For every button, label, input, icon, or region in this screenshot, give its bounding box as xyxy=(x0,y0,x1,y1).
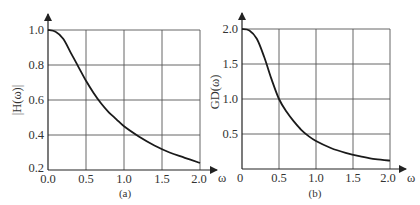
chart-a: 1.0 0.8 0.6 0.4 0.2 0.0 0.5 1.0 1.5 2.0 … xyxy=(10,14,226,200)
figure: 1.0 0.8 0.6 0.4 0.2 0.0 0.5 1.0 1.5 2.0 … xyxy=(0,0,420,205)
caption-b: (b) xyxy=(309,187,322,200)
x-label-b: ω xyxy=(407,171,415,185)
x-ticks-a: 0.0 0.5 1.0 1.5 2.0 xyxy=(40,172,207,186)
xtick: 0.0 xyxy=(40,172,56,186)
xtick: 0.5 xyxy=(78,172,94,186)
xtick: 2.0 xyxy=(380,171,396,185)
xtick: 1.5 xyxy=(345,171,361,185)
grid-b xyxy=(242,29,390,169)
ytick: 0.4 xyxy=(28,128,44,142)
x-ticks-b: 0 0.5 1.0 1.5 2.0 xyxy=(237,171,396,185)
xtick: 0 xyxy=(237,171,243,185)
xtick: 0.5 xyxy=(271,171,287,185)
x-label-a: ω xyxy=(218,171,226,185)
ytick: 0.6 xyxy=(28,93,44,107)
xtick: 1.0 xyxy=(308,171,324,185)
xtick: 1.5 xyxy=(154,172,170,186)
ytick: 1.0 xyxy=(222,92,238,106)
ytick: 1.0 xyxy=(28,23,44,37)
chart-b: 2.0 1.5 1.0 0.5 0 0.5 1.0 1.5 2.0 ω GD(ω… xyxy=(208,13,415,200)
ytick: 0.8 xyxy=(28,58,44,72)
y-label-b: GD(ω) xyxy=(208,75,222,110)
y-ticks-a: 1.0 0.8 0.6 0.4 0.2 xyxy=(28,23,44,175)
xtick: 1.0 xyxy=(116,172,132,186)
xtick: 2.0 xyxy=(191,172,207,186)
caption-a: (a) xyxy=(119,187,132,200)
ytick: 2.0 xyxy=(222,22,238,36)
y-ticks-b: 2.0 1.5 1.0 0.5 xyxy=(222,22,238,141)
y-label-a: |H(ω)| xyxy=(10,85,24,116)
ytick: 1.5 xyxy=(222,57,238,71)
ytick: 0.5 xyxy=(222,127,238,141)
